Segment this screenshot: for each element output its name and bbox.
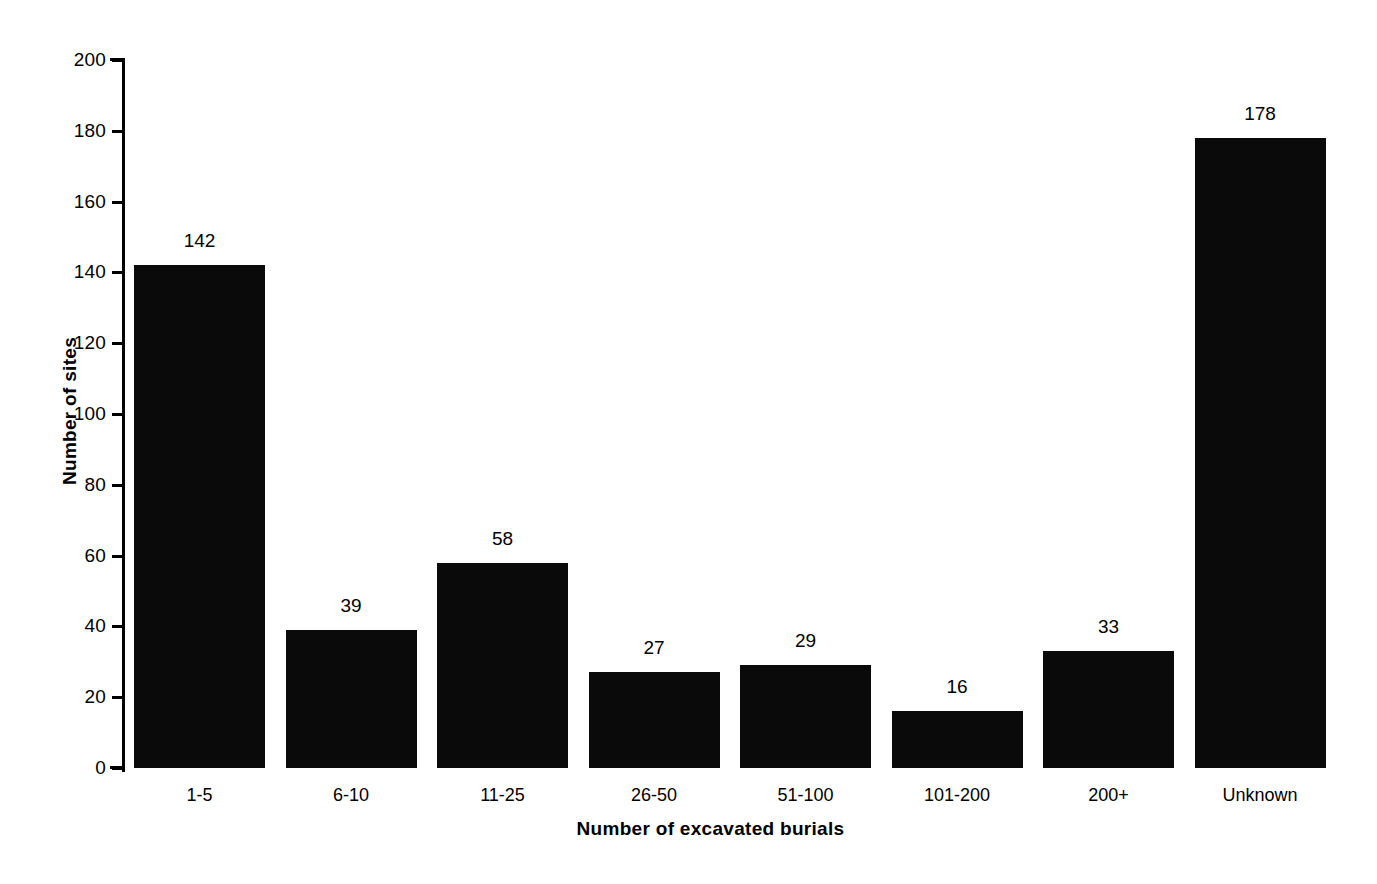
x-axis-category-label: 26-50 bbox=[589, 786, 720, 804]
y-axis-tick-label-180: 180 bbox=[36, 121, 106, 140]
y-axis-tick-180 bbox=[112, 130, 124, 133]
bar bbox=[286, 630, 417, 768]
bar-value-label: 178 bbox=[1195, 104, 1326, 123]
y-axis-tick-100 bbox=[112, 413, 124, 416]
y-axis-tick-label-140: 140 bbox=[36, 262, 106, 281]
y-axis-tick-label-200: 200 bbox=[36, 50, 106, 69]
x-axis-title: Number of excavated burials bbox=[0, 818, 1377, 840]
x-axis-category-label: 11-25 bbox=[437, 786, 568, 804]
y-axis-tick-label-160: 160 bbox=[36, 192, 106, 211]
y-axis-title: Number of sites bbox=[59, 321, 81, 501]
bar bbox=[1195, 138, 1326, 768]
x-axis-category-label: 6-10 bbox=[286, 786, 417, 804]
y-axis-tick-label-20: 20 bbox=[36, 687, 106, 706]
bar-value-label: 16 bbox=[892, 677, 1023, 696]
y-axis-tick-40 bbox=[112, 625, 124, 628]
bar bbox=[892, 711, 1023, 768]
bar-value-label: 33 bbox=[1043, 617, 1174, 636]
y-axis-tick-160 bbox=[112, 201, 124, 204]
y-axis-tick-label-40: 40 bbox=[36, 616, 106, 635]
x-axis-category-label: 1-5 bbox=[134, 786, 265, 804]
x-axis-category-label: 101-200 bbox=[892, 786, 1023, 804]
bar bbox=[589, 672, 720, 768]
bar bbox=[437, 563, 568, 768]
x-axis-category-label: 51-100 bbox=[740, 786, 871, 804]
y-axis-tick-20 bbox=[112, 696, 124, 699]
bar-value-label: 27 bbox=[589, 638, 720, 657]
bar bbox=[1043, 651, 1174, 768]
plot-area bbox=[124, 60, 1334, 768]
bar-value-label: 58 bbox=[437, 529, 568, 548]
bar bbox=[740, 665, 871, 768]
y-axis-tick-label-0: 0 bbox=[36, 758, 106, 777]
bar-value-label: 39 bbox=[286, 596, 417, 615]
y-axis-tick-120 bbox=[112, 342, 124, 345]
y-axis-tick-0 bbox=[112, 767, 124, 770]
y-axis-tick-200 bbox=[112, 59, 124, 62]
y-axis-tick-label-60: 60 bbox=[36, 546, 106, 565]
x-axis-category-label: Unknown bbox=[1195, 786, 1326, 804]
chart-page: 200180160140120100806040200 Number of si… bbox=[0, 0, 1377, 884]
y-axis-tick-60 bbox=[112, 555, 124, 558]
bar-value-label: 29 bbox=[740, 631, 871, 650]
bar-value-label: 142 bbox=[134, 231, 265, 250]
bar bbox=[134, 265, 265, 768]
y-axis-tick-140 bbox=[112, 271, 124, 274]
x-axis-category-label: 200+ bbox=[1043, 786, 1174, 804]
y-axis-tick-80 bbox=[112, 484, 124, 487]
